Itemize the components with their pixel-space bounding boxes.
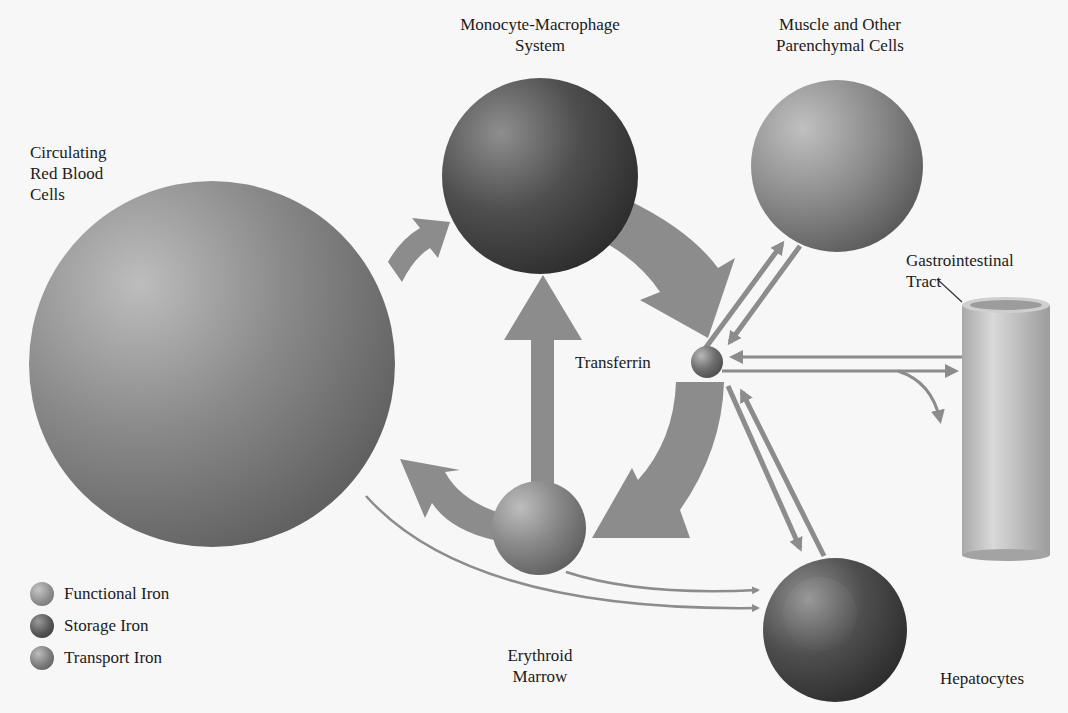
label-macrophage: Monocyte-Macrophage System	[420, 14, 660, 56]
arrow-rbc-to-macrophage	[388, 218, 450, 282]
node-rbc	[29, 181, 395, 547]
transport-iron-icon	[30, 646, 54, 670]
legend-label: Storage Iron	[64, 616, 149, 636]
node-hepatocytes	[763, 558, 907, 702]
label-muscle: Muscle and Other Parenchymal Cells	[740, 14, 940, 56]
node-transferrin	[691, 346, 723, 378]
storage-iron-icon	[30, 614, 54, 638]
arrow-transferrin-to-hepatocytes	[728, 386, 800, 548]
legend-item-functional: Functional Iron	[30, 578, 169, 610]
arrow-hepatocytes-to-transferrin	[742, 392, 824, 556]
legend-label: Functional Iron	[64, 584, 169, 604]
legend-item-transport: Transport Iron	[30, 642, 169, 674]
arrow-marrow-to-rbc	[400, 459, 500, 540]
legend-label: Transport Iron	[64, 648, 162, 668]
label-transferrin: Transferrin	[575, 352, 651, 373]
arrow-muscle-to-transferrin	[730, 246, 800, 342]
arrow-transferrin-to-marrow	[592, 382, 724, 538]
node-muscle	[751, 80, 923, 252]
label-marrow: Erythroid Marrow	[470, 645, 610, 687]
legend: Functional Iron Storage Iron Transport I…	[30, 578, 169, 674]
label-hepatocytes: Hepatocytes	[940, 668, 1024, 689]
arrow-iron-loss	[898, 371, 940, 420]
functional-iron-icon	[30, 582, 54, 606]
node-marrow	[492, 481, 586, 575]
line-marrow-to-hepatocytes	[566, 572, 758, 591]
gi-tract-tube	[937, 279, 1050, 561]
node-macrophage	[442, 78, 638, 274]
label-gi-tract: Gastrointestinal Tract	[906, 250, 1014, 292]
label-rbc: Circulating Red Blood Cells	[30, 142, 106, 205]
arrow-marrow-to-macrophage	[504, 275, 582, 488]
legend-item-storage: Storage Iron	[30, 610, 169, 642]
